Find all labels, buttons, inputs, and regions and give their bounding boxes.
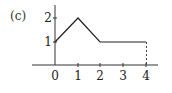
x-tick-label: 0	[51, 69, 59, 83]
x-tick-label: 1	[74, 69, 82, 83]
x-tick-label: 3	[119, 69, 127, 83]
data-series-line	[55, 18, 146, 42]
x-tick-label: 4	[142, 69, 150, 83]
y-tick-label: 1	[44, 35, 52, 49]
x-tick-label: 2	[96, 69, 104, 83]
y-tick-label: 2	[44, 11, 52, 25]
line-chart: 0 1 2 3 4 1 2	[0, 0, 172, 93]
chart-container: (c) 0 1 2 3 4 1 2	[0, 0, 172, 93]
